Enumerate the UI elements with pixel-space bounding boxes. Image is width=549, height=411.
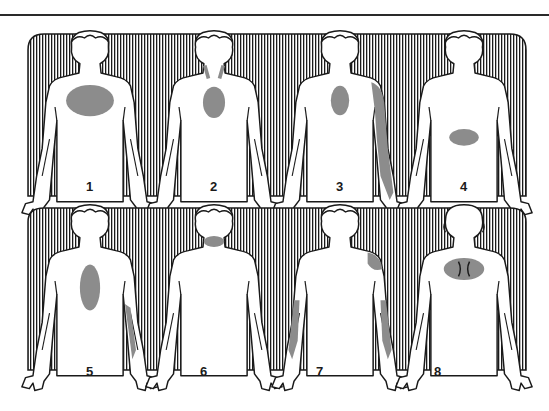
figure-label-6: 6 — [200, 364, 207, 379]
pain-area-chest-vertical — [80, 264, 100, 310]
diagram-canvas: 1 2 3 4 5 6 7 8 — [0, 0, 549, 411]
figure-label-2: 2 — [210, 179, 217, 194]
pain-area-chest — [331, 86, 349, 115]
pain-area-jaw — [204, 236, 224, 247]
figure-label-4: 4 — [460, 179, 468, 194]
pain-area-abdomen — [449, 129, 478, 146]
pain-area-chest-small — [203, 87, 225, 118]
pain-area-upper-back — [444, 258, 484, 280]
figure-label-3: 3 — [336, 179, 343, 194]
figure-label-5: 5 — [86, 364, 93, 379]
pain-area-chest-wide — [66, 85, 114, 116]
figure-label-8: 8 — [434, 364, 441, 379]
figure-label-1: 1 — [86, 179, 93, 194]
figure-label-7: 7 — [316, 364, 323, 379]
